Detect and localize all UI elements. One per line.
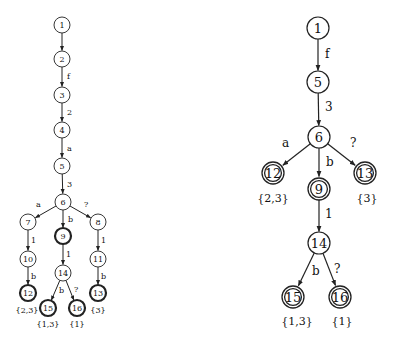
diagram-canvas: f2a3ab?111bb?b12345679810141112{2,3}15{1…: [0, 0, 395, 342]
state-number: 5: [314, 75, 322, 90]
edge-label: b: [326, 155, 334, 169]
state-number: 8: [95, 218, 100, 227]
edge-label: b: [68, 215, 73, 224]
state-number: 10: [23, 255, 33, 264]
state-number: 3: [59, 91, 64, 100]
edge-label: 2: [67, 108, 72, 117]
state-number: 12: [265, 166, 282, 181]
state-number: 15: [43, 304, 53, 313]
accept-set-label: {1}: [69, 320, 84, 329]
state-node-9: 9: [308, 178, 330, 200]
state-node-16: 16: [69, 300, 85, 316]
state-number: 5: [59, 162, 64, 171]
state-node-8: 8: [90, 214, 106, 230]
state-node-12: 12: [262, 162, 284, 184]
state-node-15: 15: [282, 286, 304, 308]
state-node-13: 13: [90, 285, 106, 301]
state-number: 13: [93, 289, 103, 298]
state-node-12: 12: [20, 285, 36, 301]
edge-label: b: [101, 272, 106, 281]
state-node-4: 4: [54, 122, 70, 138]
right-tree-diagram: f3ab?1b?15612{2,3}913{3}1415{1,3}16{1}: [257, 17, 377, 328]
edge-label: b: [59, 286, 64, 295]
accept-set-label: {1}: [332, 315, 353, 328]
edge-label: ?: [350, 136, 356, 150]
state-number: 7: [25, 218, 30, 227]
state-number: 12: [23, 289, 33, 298]
state-node-14: 14: [308, 232, 330, 254]
accept-set-label: {3}: [357, 192, 378, 205]
edge-5-6: [318, 93, 319, 126]
state-node-6: 6: [308, 126, 330, 148]
state-number: 16: [332, 290, 349, 305]
accept-set-label: {1,3}: [37, 320, 60, 329]
state-node-9: 9: [55, 228, 71, 244]
state-node-10: 10: [20, 251, 36, 267]
edge-label: 1: [31, 236, 36, 245]
state-number: 6: [315, 130, 323, 145]
state-number: 15: [285, 290, 302, 305]
edge-label: f: [325, 47, 331, 61]
edge-label: 1: [101, 236, 106, 245]
edge-label: f: [67, 72, 71, 81]
state-node-7: 7: [20, 214, 36, 230]
state-node-6: 6: [55, 194, 71, 210]
state-node-15: 15: [40, 300, 56, 316]
edge-label: ?: [74, 285, 78, 294]
state-node-11: 11: [90, 251, 106, 267]
state-node-3: 3: [54, 87, 70, 103]
state-number: 14: [58, 269, 68, 278]
state-node-5: 5: [54, 158, 70, 174]
state-number: 16: [72, 304, 82, 313]
state-number: 1: [314, 21, 322, 36]
edge-label: 3: [325, 100, 333, 114]
edge-label: 3: [67, 180, 72, 189]
edge-label: b: [312, 264, 320, 278]
state-node-13: 13: [354, 162, 376, 184]
state-node-5: 5: [307, 71, 329, 93]
edge-label: ?: [334, 262, 340, 276]
edge-label: 1: [66, 250, 71, 259]
state-node-2: 2: [54, 51, 70, 67]
accept-set-label: {1,3}: [281, 315, 313, 328]
state-node-14: 14: [55, 265, 71, 281]
left-tree-diagram: f2a3ab?111bb?b12345679810141112{2,3}15{1…: [16, 17, 107, 329]
edge-label: a: [36, 200, 41, 209]
state-number: 4: [59, 126, 64, 135]
edge-label: ?: [84, 200, 88, 209]
edge-label: a: [67, 144, 72, 153]
edge-label: a: [282, 136, 289, 150]
state-number: 11: [93, 255, 103, 264]
state-number: 6: [60, 198, 65, 207]
state-number: 9: [60, 232, 65, 241]
edge-label: b: [31, 272, 36, 281]
state-number: 14: [311, 236, 328, 251]
state-node-1: 1: [54, 17, 70, 33]
accept-set-label: {3}: [90, 306, 105, 315]
state-number: 9: [315, 182, 323, 197]
state-node-1: 1: [307, 17, 329, 39]
accept-set-label: {2,3}: [257, 192, 289, 205]
state-number: 13: [357, 166, 374, 181]
state-number: 2: [59, 55, 64, 64]
state-number: 1: [59, 21, 64, 30]
accept-set-label: {2,3}: [16, 306, 39, 315]
edge-14-16: [66, 280, 74, 300]
state-node-16: 16: [329, 286, 351, 308]
edge-label: 1: [325, 207, 333, 221]
edge-5-6: [62, 174, 63, 194]
